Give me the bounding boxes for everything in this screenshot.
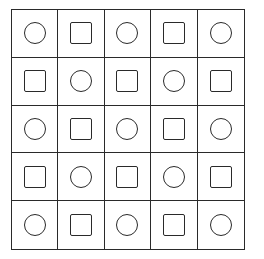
grid-cell-r4-c4 <box>151 153 197 201</box>
circle-icon <box>210 22 232 44</box>
circle-icon <box>70 70 92 92</box>
grid-cell-r4-c2 <box>58 153 104 201</box>
circle-icon <box>24 118 46 140</box>
grid-cell-r4-c5 <box>198 153 244 201</box>
grid-cell-r1-c5 <box>198 10 244 58</box>
square-icon <box>70 118 92 140</box>
circle-icon <box>163 166 185 188</box>
grid-cell-r2-c2 <box>58 58 104 106</box>
grid-cell-r2-c5 <box>198 58 244 106</box>
grid-cell-r4-c3 <box>105 153 151 201</box>
grid-cell-r3-c4 <box>151 106 197 154</box>
square-icon <box>116 166 138 188</box>
grid-cell-r5-c4 <box>151 201 197 249</box>
grid-cell-r2-c4 <box>151 58 197 106</box>
grid-cell-r1-c4 <box>151 10 197 58</box>
grid-cell-r5-c1 <box>12 201 58 249</box>
circle-icon <box>24 214 46 236</box>
grid-cell-r1-c1 <box>12 10 58 58</box>
square-icon <box>24 70 46 92</box>
shape-grid <box>11 9 245 250</box>
grid-cell-r1-c3 <box>105 10 151 58</box>
grid-cell-r3-c1 <box>12 106 58 154</box>
square-icon <box>163 118 185 140</box>
circle-icon <box>163 70 185 92</box>
square-icon <box>210 166 232 188</box>
circle-icon <box>210 214 232 236</box>
square-icon <box>210 70 232 92</box>
circle-icon <box>210 118 232 140</box>
grid-cell-r2-c3 <box>105 58 151 106</box>
grid-cell-r1-c2 <box>58 10 104 58</box>
square-icon <box>70 214 92 236</box>
grid-cell-r4-c1 <box>12 153 58 201</box>
square-icon <box>70 22 92 44</box>
circle-icon <box>116 214 138 236</box>
grid-cell-r3-c5 <box>198 106 244 154</box>
grid-cell-r2-c1 <box>12 58 58 106</box>
grid-cell-r3-c2 <box>58 106 104 154</box>
grid-cell-r5-c3 <box>105 201 151 249</box>
circle-icon <box>116 22 138 44</box>
circle-icon <box>116 118 138 140</box>
circle-icon <box>24 22 46 44</box>
circle-icon <box>70 166 92 188</box>
square-icon <box>163 214 185 236</box>
square-icon <box>116 70 138 92</box>
square-icon <box>163 22 185 44</box>
grid-cell-r3-c3 <box>105 106 151 154</box>
grid-cell-r5-c5 <box>198 201 244 249</box>
square-icon <box>24 166 46 188</box>
grid-cell-r5-c2 <box>58 201 104 249</box>
